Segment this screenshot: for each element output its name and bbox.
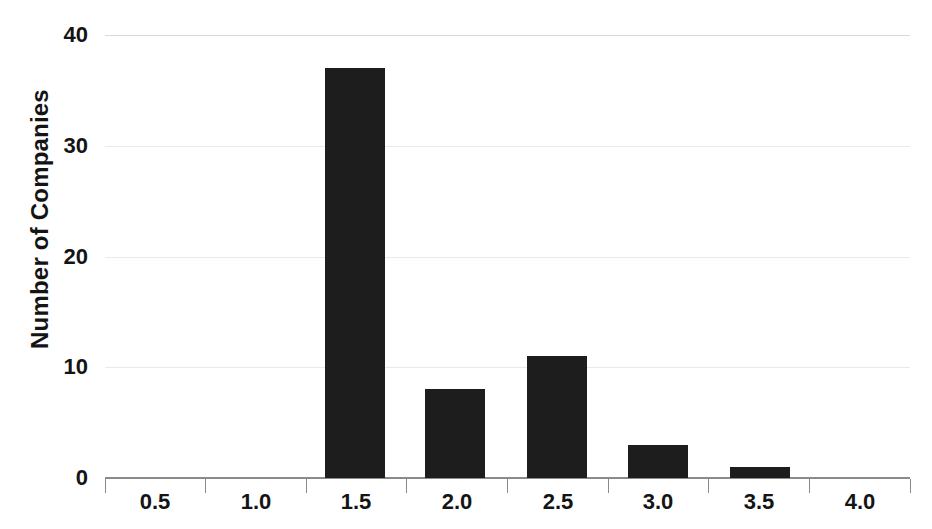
bar-2.0 — [425, 389, 485, 478]
plot-area — [105, 35, 910, 478]
y-tick-label-20: 20 — [22, 244, 88, 270]
x-tick-label-2.0: 2.0 — [402, 489, 512, 515]
x-tick-label-0.5: 0.5 — [100, 489, 210, 515]
bar-2.5 — [527, 356, 587, 478]
y-axis-tick-labels: 40 30 20 10 0 — [0, 35, 88, 478]
bar-3.0 — [628, 445, 688, 478]
bar-1.5 — [325, 68, 385, 478]
bar-3.5 — [730, 467, 790, 478]
gridline-20 — [105, 257, 910, 258]
gridline-10 — [105, 367, 910, 368]
y-tick-label-30: 30 — [22, 133, 88, 159]
y-tick-label-40: 40 — [22, 22, 88, 48]
gridline-40 — [105, 35, 910, 36]
x-tick-label-4.0: 4.0 — [805, 489, 915, 515]
y-tick-label-0: 0 — [22, 465, 88, 491]
y-tick-label-10: 10 — [22, 354, 88, 380]
x-tick-label-3.5: 3.5 — [704, 489, 814, 515]
gridline-30 — [105, 146, 910, 147]
x-tick-label-1.5: 1.5 — [301, 489, 411, 515]
x-tick-label-1.0: 1.0 — [201, 489, 311, 515]
x-tick-label-3.0: 3.0 — [603, 489, 713, 515]
bar-chart: Number of Companies 40 30 20 10 0 0.5 1.… — [0, 0, 932, 529]
x-tick-label-2.5: 2.5 — [503, 489, 613, 515]
